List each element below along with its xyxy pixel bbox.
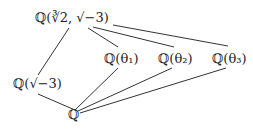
node-theta1: ℚ(θ₁) bbox=[104, 51, 139, 66]
edge-top-theta1 bbox=[88, 28, 118, 47]
node-theta2: ℚ(θ₂) bbox=[158, 51, 193, 66]
field-lattice-diagram: ℚ(∛2, √−3)ℚ(θ₁)ℚ(θ₂)ℚ(θ₃)ℚ(√−3)ℚ bbox=[0, 0, 253, 130]
edge-top-theta3 bbox=[113, 25, 228, 46]
node-top: ℚ(∛2, √−3) bbox=[35, 10, 109, 25]
node-theta3: ℚ(θ₃) bbox=[212, 51, 247, 66]
node-sqrtm3: ℚ(√−3) bbox=[13, 76, 62, 91]
edge-top-theta2 bbox=[93, 27, 174, 47]
edge-top-sqrtm3 bbox=[38, 28, 69, 75]
edge-Q-theta3 bbox=[80, 68, 226, 113]
node-Q: ℚ bbox=[68, 107, 79, 122]
